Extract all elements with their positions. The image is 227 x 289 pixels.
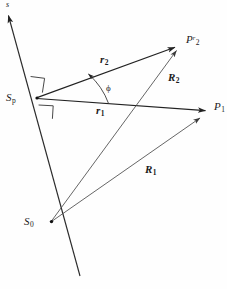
vector-R1 <box>52 118 201 222</box>
label-point-s0: S0 <box>24 216 34 229</box>
label-vector-R1: R1 <box>145 164 156 177</box>
label-point-p1: P1 <box>214 101 225 114</box>
label-point-sp: Sp <box>6 92 16 105</box>
right-angle-mark-lower <box>39 105 54 119</box>
label-s-axis: s <box>6 1 9 9</box>
vector-R2 <box>52 51 177 222</box>
label-vector-R2: R2 <box>168 72 179 85</box>
diagram-canvas: s Sp S0 P1 Pr2 r1 r2 R1 R2 ϕ <box>0 0 227 289</box>
label-vector-r2: r2 <box>100 54 108 67</box>
label-point-p2r: Pr2 <box>186 34 199 47</box>
vector-r1 <box>37 99 206 111</box>
vertex-dot-s0 <box>50 220 53 223</box>
vertex-dot-sp <box>35 96 38 99</box>
s-axis-line <box>8 16 80 277</box>
label-angle-phi: ϕ <box>106 84 111 93</box>
label-vector-r1: r1 <box>96 105 104 118</box>
right-angle-mark-upper <box>31 77 45 93</box>
